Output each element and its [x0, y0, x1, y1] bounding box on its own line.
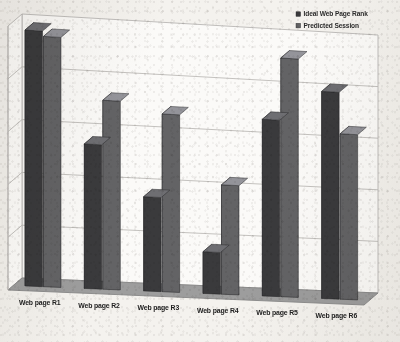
- bar-front-face: [103, 100, 121, 290]
- legend-swatch-light: [296, 23, 301, 28]
- bar-front-face: [203, 252, 221, 294]
- category-label-5: Web page R5: [256, 309, 298, 317]
- category-label-4: Web page R4: [197, 307, 239, 315]
- bar-front-face: [221, 185, 239, 295]
- bar-front-face: [281, 58, 299, 297]
- bar-chart: Web page R1Web page R2Web page R3Web pag…: [0, 0, 400, 342]
- bar-front-face: [25, 30, 43, 287]
- bar-front-face: [84, 144, 102, 289]
- bar-front-face: [322, 91, 340, 299]
- bar-front-face: [162, 114, 180, 293]
- bar-front-face: [43, 36, 61, 287]
- bar-front-face: [262, 119, 280, 296]
- bar-front-face: [340, 134, 358, 300]
- bar-front-face: [144, 197, 162, 292]
- chart-canvas: Web page R1Web page R2Web page R3Web pag…: [0, 0, 400, 342]
- category-label-1: Web page R1: [19, 299, 61, 307]
- legend-swatch-dark: [296, 12, 301, 17]
- category-label-6: Web page R6: [316, 312, 358, 320]
- category-label-3: Web page R3: [138, 304, 180, 312]
- legend-label-2: Predicted Session: [304, 22, 360, 29]
- plot-left-wall: [8, 14, 22, 290]
- category-label-2: Web page R2: [78, 302, 120, 310]
- legend-label-1: Ideal Web Page Rank: [304, 10, 369, 18]
